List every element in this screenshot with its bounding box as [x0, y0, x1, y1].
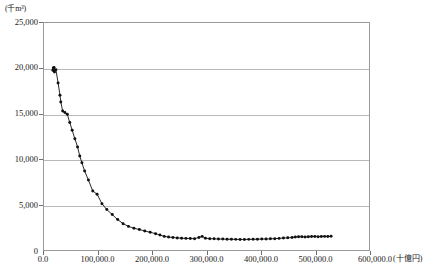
- data-point: [154, 232, 157, 235]
- data-point: [294, 236, 297, 239]
- data-point: [330, 235, 333, 238]
- data-point: [282, 237, 285, 240]
- y-tick-label: 0: [0, 247, 38, 256]
- data-point: [323, 235, 326, 238]
- data-point: [80, 161, 83, 164]
- data-point: [193, 237, 196, 240]
- data-point: [247, 238, 250, 241]
- data-point: [76, 145, 79, 148]
- data-point: [260, 238, 263, 241]
- data-point: [163, 235, 166, 238]
- data-point: [71, 129, 74, 132]
- plot-area: [43, 22, 370, 251]
- data-point: [256, 238, 259, 241]
- data-point: [111, 213, 114, 216]
- data-point: [63, 111, 66, 114]
- data-point: [269, 237, 272, 240]
- data-point: [78, 155, 81, 158]
- x-tick-label: 0.0: [38, 255, 49, 264]
- data-point: [320, 235, 323, 238]
- data-point: [239, 238, 242, 241]
- data-point: [96, 193, 99, 196]
- data-point: [221, 238, 224, 241]
- data-point: [127, 225, 130, 228]
- data-series-scatter: [44, 23, 369, 250]
- x-tick-mark: [152, 251, 153, 255]
- x-tick-label: 500,000.0: [299, 255, 333, 264]
- data-point: [317, 235, 320, 238]
- y-tick-mark: [39, 68, 43, 69]
- data-point: [243, 238, 246, 241]
- data-point: [87, 179, 90, 182]
- y-tick-label: 25,000: [0, 18, 38, 27]
- y-tick-mark: [39, 114, 43, 115]
- data-point: [122, 222, 125, 225]
- data-point: [310, 235, 313, 238]
- y-tick-mark: [39, 205, 43, 206]
- data-point: [300, 235, 303, 238]
- data-point: [132, 227, 135, 230]
- y-axis-unit-label: (千m³): [5, 2, 26, 13]
- data-point: [189, 237, 192, 240]
- data-point: [83, 170, 86, 173]
- data-point: [184, 237, 187, 240]
- data-point: [252, 238, 255, 241]
- data-point: [180, 237, 183, 240]
- data-point: [91, 189, 94, 192]
- data-point: [171, 236, 174, 239]
- data-point: [100, 202, 103, 205]
- data-point: [57, 81, 60, 84]
- data-point: [297, 235, 300, 238]
- x-tick-label: 300,000.0: [190, 255, 224, 264]
- data-point: [143, 229, 146, 232]
- x-tick-mark: [370, 251, 371, 255]
- data-point: [208, 237, 211, 240]
- data-point: [291, 236, 294, 239]
- y-tick-label: 15,000: [0, 109, 38, 118]
- x-tick-mark: [316, 251, 317, 255]
- y-tick-label: 20,000: [0, 63, 38, 72]
- data-point: [59, 101, 62, 104]
- y-tick-mark: [39, 159, 43, 160]
- data-point: [197, 236, 200, 239]
- data-point: [58, 94, 61, 97]
- data-point: [54, 68, 57, 71]
- y-tick-mark: [39, 22, 43, 23]
- y-tick-label: 5,000: [0, 201, 38, 210]
- data-point: [116, 218, 119, 221]
- data-point: [204, 237, 207, 240]
- data-point: [286, 236, 289, 239]
- data-point: [138, 228, 141, 231]
- data-point: [326, 235, 329, 238]
- x-axis-unit-label: (十億円): [393, 255, 422, 263]
- data-point: [167, 236, 170, 239]
- y-tick-label: 10,000: [0, 155, 38, 164]
- data-point: [273, 237, 276, 240]
- data-point: [149, 231, 152, 234]
- chart-root: (千m³) 05,00010,00015,00020,00025,000 0.0…: [0, 0, 431, 276]
- x-tick-mark: [261, 251, 262, 255]
- data-point: [278, 237, 281, 240]
- x-tick-mark: [43, 251, 44, 255]
- data-point: [313, 235, 316, 238]
- data-point: [105, 208, 108, 211]
- x-tick-label: 200,000.0: [135, 255, 169, 264]
- data-point: [217, 238, 220, 241]
- series-line: [53, 67, 331, 239]
- data-point: [230, 238, 233, 241]
- x-tick-label: 600,000.0: [358, 255, 392, 264]
- data-point: [307, 235, 310, 238]
- data-point: [265, 238, 268, 241]
- data-point: [226, 238, 229, 241]
- x-tick-label: 400,000.0: [244, 255, 278, 264]
- data-point: [66, 113, 69, 116]
- data-point: [73, 137, 76, 140]
- data-point: [201, 235, 204, 238]
- data-point: [234, 238, 237, 241]
- data-point: [68, 121, 71, 124]
- data-point: [176, 236, 179, 239]
- x-tick-mark: [98, 251, 99, 255]
- x-tick-mark: [207, 251, 208, 255]
- data-point: [213, 237, 216, 240]
- data-point: [158, 234, 161, 237]
